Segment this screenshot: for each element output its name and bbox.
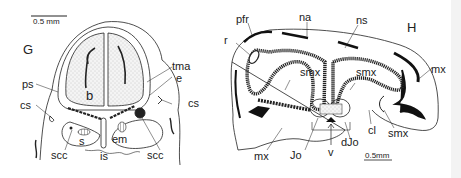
label-scc-right: scc (147, 149, 164, 161)
embryonic-mass (118, 122, 126, 132)
panel-g: 0.5 mm G (20, 16, 200, 165)
label-v: v (328, 146, 334, 158)
label-cs-left: cs (20, 99, 32, 111)
label-smx-2: smx (356, 66, 377, 78)
lower-outline-g (85, 150, 140, 154)
cs-left-mark (49, 116, 54, 122)
label-tma: tma (172, 60, 191, 72)
label-cl: cl (368, 124, 376, 136)
label-b: b (86, 88, 93, 103)
label-s: s (79, 135, 85, 147)
septomaxilla-lower (380, 96, 385, 112)
panel-label-g: G (23, 42, 33, 57)
scc-right-mark (135, 108, 145, 118)
label-mx-top: mx (431, 63, 446, 75)
label-djo: dJo (341, 136, 359, 148)
scale-bar-g-label: 0.5 mm (33, 17, 60, 26)
label-cs-right: cs (188, 97, 200, 109)
scale-bar-h-label: 0.5mm (365, 151, 390, 160)
maxilla-bone-top (394, 53, 418, 82)
label-ns: ns (356, 14, 368, 26)
label-mx-bottom: mx (254, 150, 269, 162)
label-em: em (112, 133, 127, 145)
internasal-septum (101, 118, 106, 148)
figure-canvas: 0.5 mm G (0, 0, 461, 178)
label-smx-3: smx (388, 127, 409, 139)
panel-h: H (224, 11, 446, 162)
panel-label-h: H (407, 20, 416, 35)
label-r: r (224, 34, 228, 46)
brain-left-hemisphere (66, 33, 104, 106)
scale-bar-g: 0.5 mm (31, 16, 67, 26)
cs-right-mark (158, 96, 162, 104)
label-is: is (100, 150, 108, 162)
scc-left-mark (70, 127, 73, 130)
vomer-tissue (320, 104, 342, 114)
nasal-bone-1 (282, 33, 308, 38)
label-smx-1: smx (300, 66, 321, 78)
label-jo: Jo (290, 149, 302, 161)
premaxilla-bone (244, 32, 272, 42)
maxilla-bone-left (248, 106, 270, 118)
label-na: na (299, 11, 312, 23)
teeth-left (35, 140, 36, 158)
anterior-bone (235, 70, 240, 118)
label-ps: ps (22, 78, 34, 90)
trabecula-plate (68, 106, 135, 120)
label-scc-left: scc (51, 149, 68, 161)
scale-bar-h: 0.5mm (364, 151, 392, 160)
label-e: e (176, 72, 182, 84)
label-pfr: pfr (236, 13, 249, 25)
teeth-right (170, 118, 174, 134)
